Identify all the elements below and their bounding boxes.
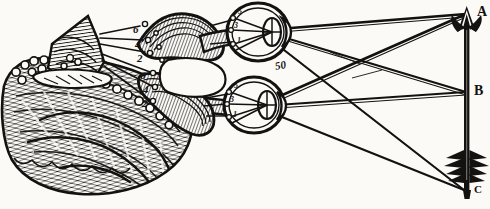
label-nerve-upper-6: 6 <box>133 24 139 35</box>
label-retina-upper-5: 5 <box>238 8 242 16</box>
label-point-B: B <box>474 84 483 98</box>
label-nerve-lower-6: 6 <box>140 70 146 81</box>
label-retina-upper-3: 3 <box>234 22 238 30</box>
label-retina-lower-5: 5 <box>234 82 238 90</box>
engraving-plate: A B C 50 5 3 1 5 3 1 6 4 2 6 4 2 <box>0 0 490 209</box>
label-retina-lower-3: 3 <box>230 96 234 104</box>
label-point-C: C <box>474 184 482 195</box>
label-retina-upper-1: 1 <box>237 37 241 45</box>
label-retina-lower-1: 1 <box>233 111 237 119</box>
label-nerve-upper-2: 2 <box>137 53 143 64</box>
label-plate-number: 50 <box>274 59 287 72</box>
label-point-A: A <box>477 5 487 19</box>
label-nerve-upper-4: 4 <box>135 39 141 50</box>
label-nerve-lower-2: 2 <box>142 98 148 109</box>
label-nerve-lower-4: 4 <box>143 84 149 95</box>
engraving-artwork <box>0 0 490 209</box>
brain-ventricle-cavity <box>160 58 226 97</box>
